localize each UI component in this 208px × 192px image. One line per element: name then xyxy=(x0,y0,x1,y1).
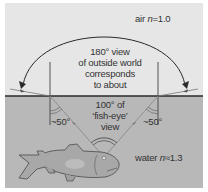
fisheye-view-label: 100° of ‘fish-eye’ view xyxy=(75,99,145,132)
diagram-panel: air n=1.0 180° view of outside world cor… xyxy=(5,3,203,188)
fisheye-line-3: view xyxy=(75,121,145,132)
air-name: air xyxy=(135,13,147,24)
fish-eye-icon xyxy=(102,156,105,159)
air-medium-label: air n=1.0 xyxy=(135,13,170,24)
water-n-value: ≈1.3 xyxy=(165,152,183,163)
outside-view-line-4: to about xyxy=(65,79,155,90)
angle-label-left: ~50° xyxy=(51,116,70,127)
fisheye-line-1: 100° of xyxy=(75,99,145,110)
outside-view-line-2: of outside world xyxy=(65,57,155,68)
outside-view-label: 180° view of outside world corresponds t… xyxy=(65,46,155,90)
angle-label-right: ~50° xyxy=(143,116,162,127)
outside-view-line-1: 180° view xyxy=(65,46,155,57)
outside-view-line-3: corresponds xyxy=(65,68,155,79)
air-n-value: =1.0 xyxy=(153,13,171,24)
water-medium-label: water n≈1.3 xyxy=(135,152,182,163)
water-name: water xyxy=(135,152,160,163)
fisheye-line-2: ‘fish-eye’ xyxy=(75,110,145,121)
